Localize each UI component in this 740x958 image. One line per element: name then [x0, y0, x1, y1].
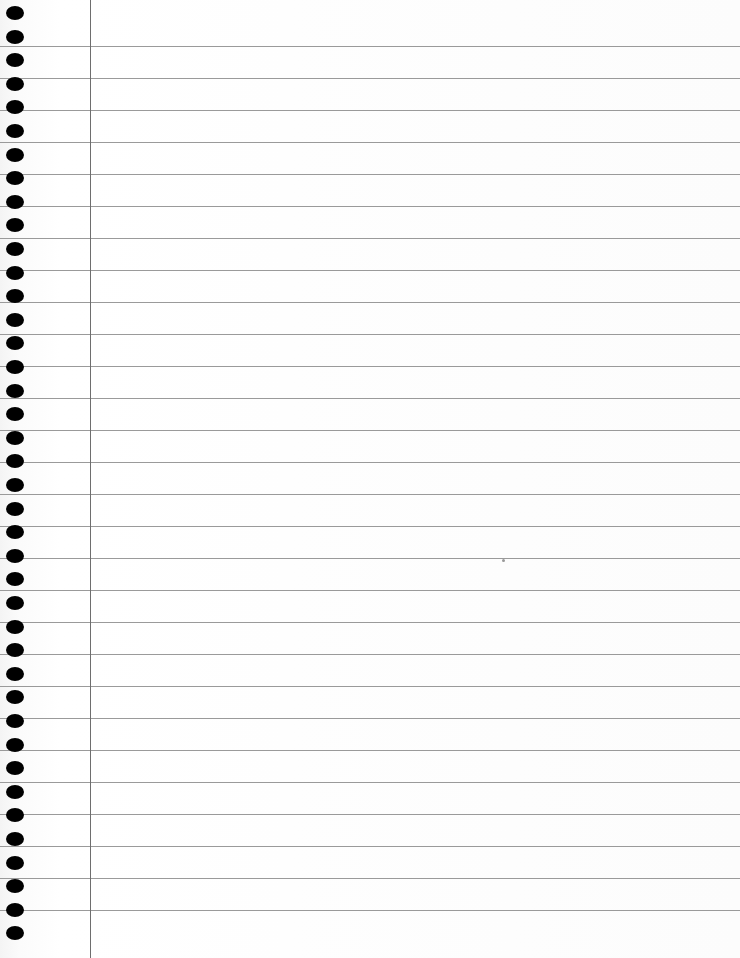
ruled-line	[0, 526, 740, 527]
binder-hole-icon	[6, 549, 24, 563]
ruled-line	[0, 334, 740, 335]
notebook-page	[0, 0, 740, 958]
binder-hole-icon	[6, 690, 24, 704]
binder-hole-icon	[6, 431, 24, 445]
binder-hole-icon	[6, 171, 24, 185]
binder-hole-icon	[6, 738, 24, 752]
binder-hole-icon	[6, 360, 24, 374]
ruled-line	[0, 398, 740, 399]
binder-hole-icon	[6, 6, 24, 20]
binder-hole-icon	[6, 100, 24, 114]
binder-hole-icon	[6, 124, 24, 138]
ruled-line	[0, 46, 740, 47]
binder-hole-icon	[6, 407, 24, 421]
binder-hole-icon	[6, 53, 24, 67]
ruled-line	[0, 814, 740, 815]
ruled-line	[0, 782, 740, 783]
ruled-line	[0, 622, 740, 623]
binder-hole-icon	[6, 620, 24, 634]
binder-hole-icon	[6, 77, 24, 91]
ruled-line	[0, 718, 740, 719]
ruled-line	[0, 558, 740, 559]
binder-hole-icon	[6, 478, 24, 492]
binder-hole-icon	[6, 289, 24, 303]
ruled-line	[0, 910, 740, 911]
binder-hole-icon	[6, 148, 24, 162]
binder-hole-icon	[6, 454, 24, 468]
binder-hole-icon	[6, 856, 24, 870]
margin-line	[90, 0, 91, 958]
binder-hole-icon	[6, 643, 24, 657]
binder-hole-icon	[6, 336, 24, 350]
ruled-line	[0, 366, 740, 367]
binder-hole-icon	[6, 879, 24, 893]
binder-hole-icon	[6, 218, 24, 232]
binder-hole-icon	[6, 926, 24, 940]
binder-hole-icon	[6, 525, 24, 539]
ruled-line	[0, 846, 740, 847]
ruled-line	[0, 302, 740, 303]
binder-hole-icon	[6, 761, 24, 775]
ruled-line	[0, 270, 740, 271]
ruled-line	[0, 462, 740, 463]
binder-hole-icon	[6, 242, 24, 256]
binder-hole-icon	[6, 714, 24, 728]
binder-hole-icon	[6, 903, 24, 917]
binder-hole-icon	[6, 785, 24, 799]
ruled-line	[0, 878, 740, 879]
ruled-line	[0, 174, 740, 175]
ruled-line	[0, 494, 740, 495]
ruled-line	[0, 654, 740, 655]
ruled-line	[0, 206, 740, 207]
paper-speck	[502, 559, 505, 562]
binder-hole-icon	[6, 313, 24, 327]
binder-hole-icon	[6, 832, 24, 846]
ruled-line	[0, 590, 740, 591]
binder-hole-icon	[6, 808, 24, 822]
binder-hole-icon	[6, 502, 24, 516]
ruled-line	[0, 142, 740, 143]
binder-hole-icon	[6, 596, 24, 610]
ruled-line	[0, 430, 740, 431]
binder-hole-icon	[6, 266, 24, 280]
binder-hole-icon	[6, 384, 24, 398]
ruled-line	[0, 750, 740, 751]
ruled-line	[0, 78, 740, 79]
ruled-line	[0, 238, 740, 239]
binder-hole-icon	[6, 667, 24, 681]
binder-hole-icon	[6, 30, 24, 44]
ruled-line	[0, 110, 740, 111]
binder-hole-icon	[6, 195, 24, 209]
binder-hole-icon	[6, 572, 24, 586]
ruled-line	[0, 686, 740, 687]
